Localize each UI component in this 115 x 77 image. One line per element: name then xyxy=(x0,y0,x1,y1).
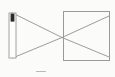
pinhole-camera-figure xyxy=(0,0,115,77)
candle-tip-icon xyxy=(11,14,15,22)
diagram-canvas xyxy=(0,0,115,77)
caption-stub xyxy=(36,71,46,72)
